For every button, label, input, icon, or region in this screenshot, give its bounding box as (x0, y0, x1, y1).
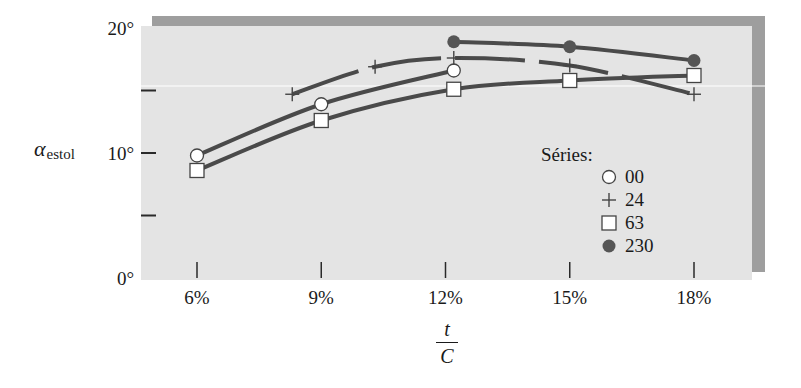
data-point-63 (687, 69, 701, 83)
chart: 0°10°20°6%9%12%15%18% Séries:002463230 (0, 0, 801, 388)
data-point-230 (563, 40, 576, 53)
data-point-00 (315, 98, 328, 111)
data-point-63 (190, 164, 204, 178)
legend-marker-00 (603, 171, 616, 184)
legend-title: Séries: (541, 144, 593, 165)
legend-label-00: 00 (625, 166, 644, 187)
x-tick-label: 12% (428, 287, 463, 308)
legend-marker-230 (603, 240, 616, 253)
legend-label-63: 63 (625, 212, 644, 233)
data-point-63 (563, 74, 577, 88)
x-axis-label: t C (432, 318, 462, 367)
data-point-63 (447, 82, 461, 96)
plot-area (141, 26, 752, 280)
y-tick-label: 10° (107, 143, 134, 164)
data-point-00 (191, 149, 204, 162)
legend-marker-63 (602, 216, 616, 230)
y-axis-label-symbol: α (34, 136, 46, 161)
x-tick-label: 18% (677, 287, 712, 308)
data-point-230 (688, 54, 701, 67)
x-tick-label: 6% (184, 287, 210, 308)
x-tick-label: 15% (552, 287, 587, 308)
legend-label-230: 230 (625, 235, 654, 256)
fraction-bar (436, 342, 458, 343)
y-tick-label: 0° (117, 268, 134, 289)
y-axis-label-subscript: estol (47, 146, 75, 162)
y-axis-label: αestol (34, 136, 75, 163)
x-axis-label-numerator: t (432, 318, 462, 340)
data-point-230 (447, 35, 460, 48)
legend-label-24: 24 (625, 189, 645, 210)
data-point-63 (314, 114, 328, 128)
x-axis-label-denominator: C (432, 345, 462, 367)
data-point-00 (447, 64, 460, 77)
y-tick-label: 20° (107, 18, 134, 39)
x-tick-label: 9% (309, 287, 335, 308)
